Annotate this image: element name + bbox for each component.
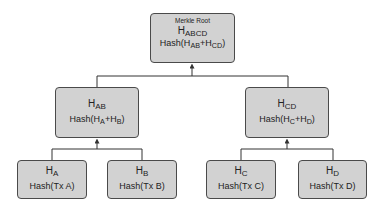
ha-label: HA xyxy=(18,165,86,178)
connector-ab-children xyxy=(52,149,142,160)
root-hash: Hash(HAB+HCD) xyxy=(151,38,234,49)
node-hab: HAB Hash(HA+HB) xyxy=(55,87,139,138)
hc-label: HC xyxy=(207,165,275,178)
merkle-root-node: Merkle Root HABCD Hash(HAB+HCD) xyxy=(150,13,235,63)
hab-label: HAB xyxy=(56,98,138,111)
leaf-hd: HD Hash(Tx D) xyxy=(298,160,367,199)
hab-hash: Hash(HA+HB) xyxy=(56,114,138,125)
root-caption: Merkle Root xyxy=(151,17,234,25)
connector-root-children xyxy=(97,76,288,87)
node-hcd: HCD Hash(HC+HD) xyxy=(245,87,329,138)
leaf-ha: HA Hash(Tx A) xyxy=(17,160,87,199)
hd-hash: Hash(Tx D) xyxy=(299,181,366,192)
hd-label: HD xyxy=(299,165,366,178)
hb-label: HB xyxy=(108,165,176,178)
leaf-hb: HB Hash(Tx B) xyxy=(107,160,177,199)
hcd-label: HCD xyxy=(246,98,328,111)
leaf-hc: HC Hash(Tx C) xyxy=(206,160,276,199)
hb-hash: Hash(Tx B) xyxy=(108,181,176,192)
hc-hash: Hash(Tx C) xyxy=(207,181,275,192)
ha-hash: Hash(Tx A) xyxy=(18,181,86,192)
connector-cd-children xyxy=(241,149,333,160)
hcd-hash: Hash(HC+HD) xyxy=(246,114,328,125)
root-label: HABCD xyxy=(151,25,234,38)
